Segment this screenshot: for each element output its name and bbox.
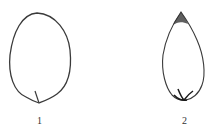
figure-1-ovate-shape [10, 13, 71, 103]
outline-2 [163, 12, 204, 100]
figure-label-2: 2 [182, 116, 187, 126]
figure-2-teardrop-shape [163, 12, 204, 100]
outline-1 [10, 13, 71, 103]
figure-label-1: 1 [37, 116, 42, 126]
